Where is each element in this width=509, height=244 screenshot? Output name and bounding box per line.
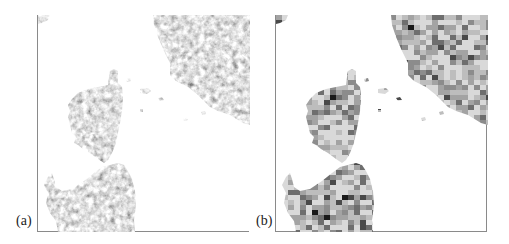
- land-cell: [474, 215, 480, 220]
- land-cell: [330, 90, 336, 95]
- land-cell: [432, 200, 438, 205]
- land-cell: [276, 55, 282, 60]
- land-cell: [384, 135, 390, 140]
- land-cell: [372, 200, 378, 205]
- land-cell: [342, 90, 348, 95]
- land-cell: [432, 25, 438, 30]
- land-cell: [360, 180, 366, 185]
- land-cell: [360, 130, 366, 135]
- land-cell: [468, 75, 474, 80]
- land-cell: [444, 145, 450, 150]
- land-cell: [348, 85, 354, 90]
- land-cell: [396, 225, 402, 230]
- land-cell: [354, 60, 360, 65]
- land-cell: [384, 40, 390, 45]
- land-cell: [348, 210, 354, 215]
- land-cell: [390, 205, 396, 210]
- land-cell: [378, 95, 384, 100]
- land-cell: [330, 130, 336, 135]
- land-cell: [396, 140, 402, 145]
- land-cell: [366, 150, 372, 155]
- land-cell: [312, 170, 318, 175]
- land-cell: [444, 55, 450, 60]
- land-cell: [312, 85, 318, 90]
- land-cell: [336, 55, 342, 60]
- land-cell: [450, 145, 456, 150]
- land-cell: [456, 125, 462, 130]
- land-cell: [276, 215, 282, 220]
- land-cell: [480, 230, 486, 232]
- land-cell: [330, 20, 336, 25]
- land-cell: [360, 155, 366, 160]
- land-cell: [276, 85, 282, 90]
- land-cell: [486, 105, 488, 110]
- land-cell: [474, 165, 480, 170]
- land-cell: [318, 195, 324, 200]
- land-cell: [288, 150, 294, 155]
- land-cell: [342, 175, 348, 180]
- land-cell: [474, 30, 480, 35]
- land-cell: [372, 90, 378, 95]
- land-cell: [462, 165, 468, 170]
- land-cell: [426, 95, 432, 100]
- land-cell: [396, 215, 402, 220]
- land-cell: [324, 105, 330, 110]
- land-cell: [438, 185, 444, 190]
- land-cell: [348, 170, 354, 175]
- land-cell: [378, 25, 384, 30]
- land-cell: [474, 50, 480, 55]
- land-cell: [384, 170, 390, 175]
- land-cell: [276, 80, 282, 85]
- land-cell: [330, 160, 336, 165]
- land-cell: [306, 95, 312, 100]
- land-cell: [288, 200, 294, 205]
- land-cell: [420, 140, 426, 145]
- land-cell: [294, 215, 300, 220]
- land-cell: [354, 200, 360, 205]
- land-cell: [294, 125, 300, 130]
- land-cell: [306, 160, 312, 165]
- land-cell: [354, 35, 360, 40]
- land-cell: [348, 160, 354, 165]
- land-cell: [300, 150, 306, 155]
- land-cell: [318, 185, 324, 190]
- land-cell: [468, 175, 474, 180]
- land-cell: [312, 180, 318, 185]
- land-cell: [402, 20, 408, 25]
- land-cell: [438, 170, 444, 175]
- land-cell: [342, 185, 348, 190]
- land-cell: [348, 30, 354, 35]
- land-cell: [288, 145, 294, 150]
- land-cell: [420, 40, 426, 45]
- land-cell: [300, 50, 306, 55]
- land-cell: [276, 60, 282, 65]
- land-cell: [390, 230, 396, 232]
- land-cell: [312, 215, 318, 220]
- land-cell: [336, 30, 342, 35]
- land-cell: [354, 70, 360, 75]
- land-cell: [462, 200, 468, 205]
- land-cell: [384, 55, 390, 60]
- land-cell: [384, 225, 390, 230]
- land-cell: [474, 155, 480, 160]
- land-cell: [366, 140, 372, 145]
- land-cell: [378, 55, 384, 60]
- land-cell: [336, 50, 342, 55]
- land-cell: [336, 90, 342, 95]
- land-cell: [300, 165, 306, 170]
- land-cell: [390, 75, 396, 80]
- land-cell: [432, 165, 438, 170]
- land-cell: [480, 145, 486, 150]
- land-cell: [444, 155, 450, 160]
- land-cell: [348, 200, 354, 205]
- land-cell: [450, 100, 456, 105]
- land-cell: [378, 200, 384, 205]
- land-cell: [312, 165, 318, 170]
- land-cell: [462, 65, 468, 70]
- land-cell: [348, 75, 354, 80]
- land-cell: [372, 50, 378, 55]
- land-cell: [318, 180, 324, 185]
- land-cell: [306, 50, 312, 55]
- land-cell: [342, 230, 348, 232]
- land-cell: [402, 185, 408, 190]
